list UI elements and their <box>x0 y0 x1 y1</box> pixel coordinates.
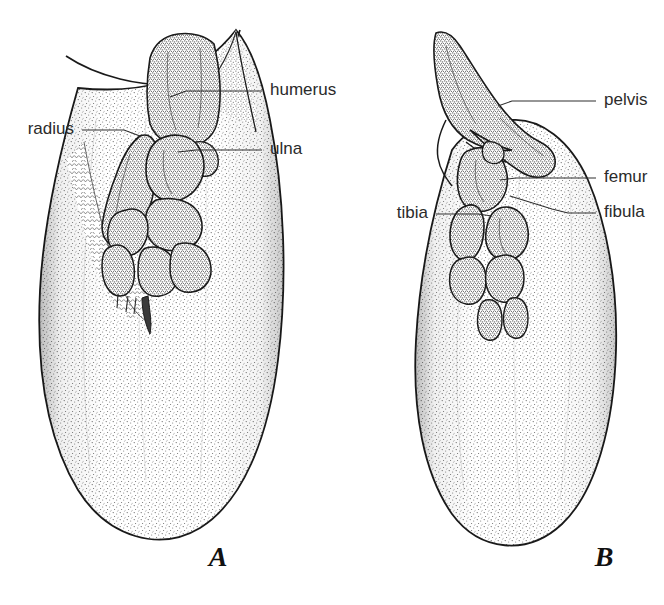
label-text-radius: radius <box>28 119 74 138</box>
carpal-bone-1 <box>145 199 202 251</box>
label-text-tibia: tibia <box>397 203 429 222</box>
fibula-bone <box>486 207 529 260</box>
humerus-bone <box>147 33 220 146</box>
label-text-fibula: fibula <box>604 202 645 221</box>
panel-caption-b: B <box>594 541 614 572</box>
label-text-femur: femur <box>604 167 648 186</box>
anatomical-figure: humerus radius ulna pelvis femur fibula … <box>0 0 664 605</box>
label-text-humerus: humerus <box>270 80 336 99</box>
panel-caption-a: A <box>207 541 228 572</box>
tarsal-bone-1 <box>450 257 486 304</box>
label-text-ulna: ulna <box>270 139 303 158</box>
digit-bone-1 <box>102 245 134 296</box>
metatarsal-bone-2 <box>503 298 528 339</box>
label-text-pelvis: pelvis <box>604 90 647 109</box>
tarsal-bone-2 <box>486 255 524 302</box>
metatarsal-bone-1 <box>477 300 502 341</box>
